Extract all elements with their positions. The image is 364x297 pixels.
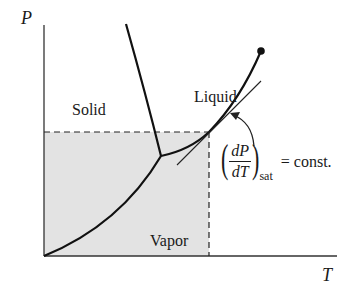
derivative-fraction: dP dT xyxy=(229,143,251,180)
equation-rhs: = const. xyxy=(281,153,332,171)
x-axis-label: T xyxy=(322,266,332,284)
open-paren: ( xyxy=(221,139,228,179)
region-label-vapor: Vapor xyxy=(150,233,188,249)
subscript: sat xyxy=(259,169,272,184)
region-label-liquid: Liquid xyxy=(194,89,237,105)
arrowhead-icon xyxy=(230,112,240,120)
numerator: dP xyxy=(229,143,251,162)
critical-point xyxy=(257,47,265,55)
region-label-solid: Solid xyxy=(72,102,106,118)
y-axis-label: P xyxy=(21,9,32,27)
slope-annotation: ( dP dT ) sat = const. xyxy=(218,143,332,180)
close-paren: ) xyxy=(252,139,259,179)
denominator: dT xyxy=(230,162,251,180)
